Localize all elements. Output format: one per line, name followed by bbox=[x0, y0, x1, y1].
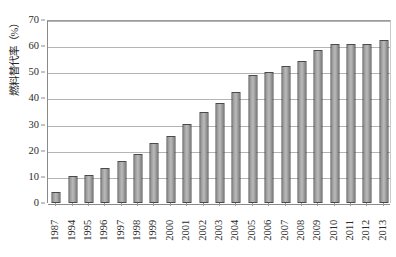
bar[interactable] bbox=[314, 50, 323, 203]
bar[interactable] bbox=[363, 44, 372, 203]
x-axis-tick-mark bbox=[219, 203, 220, 206]
x-axis-tick-mark bbox=[153, 203, 154, 206]
x-axis-tick-mark bbox=[350, 203, 351, 206]
x-axis-tick-label: 2005 bbox=[247, 220, 258, 241]
x-axis-tick-label: 2004 bbox=[230, 220, 241, 241]
bar-slot bbox=[179, 21, 195, 203]
y-axis-tick-mark bbox=[41, 98, 45, 99]
x-label-slot: 2006 bbox=[260, 203, 276, 257]
x-label-slot: 2010 bbox=[325, 203, 341, 257]
bar[interactable] bbox=[297, 61, 306, 203]
x-axis-tick-label: 1996 bbox=[99, 220, 110, 241]
x-axis-tick-labels: 1987199419951996199719981999200020012002… bbox=[47, 203, 391, 257]
x-axis-tick-label: 2013 bbox=[378, 220, 389, 241]
x-axis-tick-mark bbox=[235, 203, 236, 206]
x-axis-tick-mark bbox=[252, 203, 253, 206]
x-axis-tick-mark bbox=[88, 203, 89, 206]
bar-slot bbox=[163, 21, 179, 203]
x-axis-tick-mark bbox=[137, 203, 138, 206]
bar-slot bbox=[64, 21, 80, 203]
bar-slot bbox=[130, 21, 146, 203]
bar[interactable] bbox=[232, 92, 241, 203]
x-axis-tick-label: 2001 bbox=[181, 220, 192, 241]
bar[interactable] bbox=[330, 44, 339, 203]
y-axis-tick-label: 60 bbox=[29, 41, 40, 52]
bar-slot bbox=[310, 21, 326, 203]
bar-slot bbox=[48, 21, 64, 203]
bar[interactable] bbox=[101, 168, 110, 203]
bar[interactable] bbox=[281, 66, 290, 203]
x-label-slot: 2009 bbox=[309, 203, 325, 257]
x-label-slot: 1994 bbox=[63, 203, 79, 257]
x-axis-tick-mark bbox=[170, 203, 171, 206]
x-label-slot: 1997 bbox=[113, 203, 129, 257]
bar-slot bbox=[343, 21, 359, 203]
bar-slot bbox=[146, 21, 162, 203]
bar-slot bbox=[114, 21, 130, 203]
bar[interactable] bbox=[68, 176, 77, 203]
x-axis-tick-label: 2009 bbox=[312, 220, 323, 241]
bar[interactable] bbox=[84, 175, 93, 203]
x-axis-tick-mark bbox=[72, 203, 73, 206]
x-label-slot: 2012 bbox=[358, 203, 374, 257]
bar[interactable] bbox=[265, 72, 274, 203]
bar[interactable] bbox=[379, 40, 388, 203]
bar-slot bbox=[81, 21, 97, 203]
x-label-slot: 2005 bbox=[244, 203, 260, 257]
bar[interactable] bbox=[215, 103, 224, 203]
y-axis-tick-label: 10 bbox=[29, 172, 40, 183]
y-axis-tick-label: 70 bbox=[29, 15, 40, 26]
x-label-slot: 2008 bbox=[293, 203, 309, 257]
x-axis-tick-label: 2003 bbox=[214, 220, 225, 241]
x-axis-tick-mark bbox=[203, 203, 204, 206]
bar-slot bbox=[212, 21, 228, 203]
bar[interactable] bbox=[183, 124, 192, 203]
x-axis-tick-label: 2000 bbox=[165, 220, 176, 241]
bar[interactable] bbox=[117, 161, 126, 203]
bar[interactable] bbox=[134, 154, 143, 203]
bar-slot bbox=[277, 21, 293, 203]
x-axis-tick-mark bbox=[268, 203, 269, 206]
bar-slot bbox=[195, 21, 211, 203]
y-axis-tick-label: 50 bbox=[29, 67, 40, 78]
x-label-slot: 2013 bbox=[375, 203, 391, 257]
bar[interactable] bbox=[150, 143, 159, 203]
x-axis-tick-label: 2011 bbox=[345, 220, 356, 241]
y-axis-tick-label: 20 bbox=[29, 145, 40, 156]
x-axis-tick-label: 1998 bbox=[132, 220, 143, 241]
x-label-slot: 1987 bbox=[47, 203, 63, 257]
bar-slot bbox=[376, 21, 392, 203]
plot-area bbox=[47, 20, 391, 203]
x-label-slot: 2004 bbox=[227, 203, 243, 257]
x-axis-tick-label: 2007 bbox=[279, 220, 290, 241]
bar[interactable] bbox=[199, 112, 208, 203]
bar-slot bbox=[261, 21, 277, 203]
x-axis-tick-mark bbox=[186, 203, 187, 206]
x-axis-tick-label: 1994 bbox=[66, 220, 77, 241]
x-label-slot: 2001 bbox=[178, 203, 194, 257]
bar[interactable] bbox=[52, 192, 61, 203]
x-label-slot: 1999 bbox=[145, 203, 161, 257]
x-axis-tick-mark bbox=[55, 203, 56, 206]
y-axis-tick-mark bbox=[41, 150, 45, 151]
x-axis-tick-label: 2002 bbox=[197, 220, 208, 241]
x-axis-tick-mark bbox=[285, 203, 286, 206]
bar[interactable] bbox=[166, 136, 175, 203]
bar-slot bbox=[294, 21, 310, 203]
x-axis-tick-label: 1997 bbox=[115, 220, 126, 241]
x-axis-tick-label: 2012 bbox=[361, 220, 372, 241]
bar[interactable] bbox=[347, 44, 356, 203]
x-axis-tick-mark bbox=[121, 203, 122, 206]
x-label-slot: 1998 bbox=[129, 203, 145, 257]
y-axis-tick-mark bbox=[41, 20, 45, 21]
x-axis-tick-mark bbox=[301, 203, 302, 206]
x-axis-tick-mark bbox=[383, 203, 384, 206]
x-axis-tick-mark bbox=[104, 203, 105, 206]
bars-layer bbox=[48, 21, 390, 203]
x-label-slot: 2007 bbox=[276, 203, 292, 257]
x-label-slot: 1995 bbox=[80, 203, 96, 257]
bar[interactable] bbox=[248, 75, 257, 203]
y-axis-tick-mark bbox=[41, 176, 45, 177]
y-axis-tick-mark bbox=[41, 124, 45, 125]
x-axis-tick-label: 1987 bbox=[50, 220, 61, 241]
